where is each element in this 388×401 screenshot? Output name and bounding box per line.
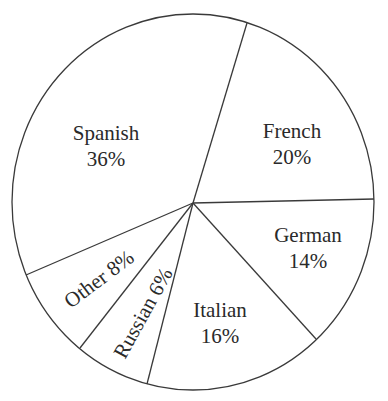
boundary-spanish-french — [193, 23, 247, 203]
slice-value-italian: 16% — [201, 324, 240, 348]
slice-label-spanish: Spanish — [73, 121, 140, 145]
boundary-french-german — [193, 199, 374, 203]
slice-value-german: 14% — [289, 249, 328, 273]
slice-french: French 20% — [263, 119, 322, 169]
slice-label-french: French — [263, 119, 322, 143]
slice-italian: Italian 16% — [193, 298, 247, 348]
slice-value-french: 20% — [273, 145, 312, 169]
slice-value-spanish: 36% — [87, 147, 126, 171]
slice-german: German 14% — [274, 223, 342, 273]
slice-spanish: Spanish 36% — [73, 121, 140, 171]
pie-chart: Spanish 36% French 20% German 14% Italia… — [0, 0, 388, 401]
slice-label-italian: Italian — [193, 298, 247, 322]
slice-label-german: German — [274, 223, 342, 247]
